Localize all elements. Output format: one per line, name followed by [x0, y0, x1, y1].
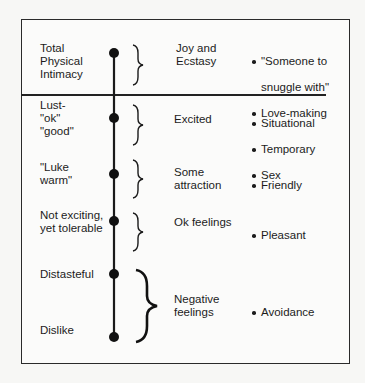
example-item: Situational — [252, 117, 315, 130]
feeling-excited: Excited — [174, 113, 212, 126]
example-item: snuggle with" — [252, 81, 329, 94]
scale-point-dislike — [109, 332, 119, 342]
example-item: "Someone to — [252, 55, 329, 68]
example-item: Friendly — [252, 179, 302, 192]
example-item: Pleasant — [252, 229, 306, 242]
scale-point-lust — [109, 113, 119, 123]
large-brace-icon — [136, 270, 157, 342]
scale-point-distasteful — [109, 269, 119, 279]
level-label-lukewarm: "Luke warm" — [40, 161, 72, 187]
level-label-lust: Lust- "ok" "good" — [40, 99, 74, 138]
level-label-distasteful: Distasteful — [40, 268, 94, 281]
level-label-dislike: Dislike — [40, 324, 74, 337]
examples-negative: Avoidance — [252, 293, 315, 332]
brace-icon — [133, 45, 143, 251]
level-label-tolerable: Not exciting, yet tolerable — [40, 209, 103, 235]
scale-point-lukewarm — [109, 169, 119, 179]
feeling-ok: Ok feelings — [174, 216, 232, 229]
feeling-negative: Negative feelings — [174, 293, 219, 319]
example-item: Avoidance — [252, 306, 315, 319]
examples-ok: Pleasant — [252, 216, 306, 255]
example-item: Temporary — [252, 143, 315, 156]
feeling-some-attraction: Some attraction — [174, 166, 221, 192]
level-label-total-intimacy: Total Physical Intimacy — [40, 42, 83, 81]
examples-attraction: Friendly — [252, 166, 302, 205]
scale-point-tolerable — [109, 216, 119, 226]
feeling-joy-ecstasy: Joy and Ecstasy — [176, 42, 216, 68]
scale-point-total-intimacy — [109, 48, 119, 58]
